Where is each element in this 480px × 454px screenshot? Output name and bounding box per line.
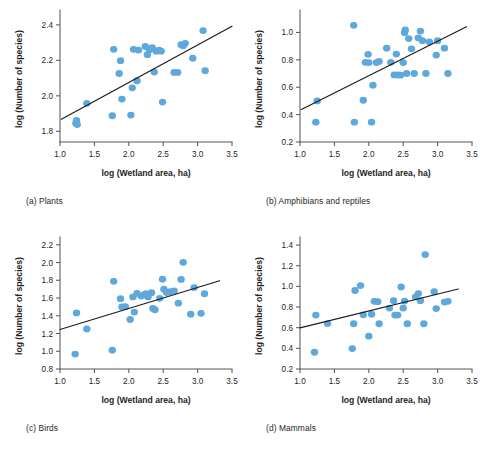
data-point [127,112,134,119]
data-point [109,112,116,119]
data-point [350,22,357,29]
data-point [383,45,390,52]
panel-b-plot: 0.20.40.60.81.01.01.52.02.53.03.5log (We… [240,0,480,195]
data-point [135,47,142,54]
data-point [405,35,412,42]
panel-d-plot: 0.20.40.60.81.01.21.41.01.52.02.53.03.5l… [240,227,480,422]
y-tick-label: 1.2 [42,330,54,339]
data-point [365,59,372,66]
panel-d-caption: (d) Mammals [266,423,316,433]
data-point [420,320,427,327]
data-point [422,251,429,258]
data-point [394,312,401,319]
data-point [360,97,367,104]
data-point [402,27,409,34]
x-tick-label: 1.5 [329,150,341,159]
data-point [177,276,184,283]
data-point [109,347,116,354]
y-tick-label: 1.0 [42,347,54,356]
data-point [441,45,448,52]
data-point [397,283,404,290]
panel-b-caption: (b) Amphibians and reptiles [266,196,370,206]
data-point [71,351,78,358]
y-tick-label: 0.4 [282,111,294,120]
data-point [351,119,358,126]
panel-a: 1.82.02.22.41.01.52.02.53.03.5log (Wetla… [0,0,240,227]
data-point [110,46,117,53]
data-point [174,69,181,76]
y-tick-label: 2.2 [42,241,54,250]
x-tick-label: 1.0 [294,377,306,386]
panel-b: 0.20.40.60.81.01.01.52.02.53.03.5log (We… [240,0,480,227]
y-axis-title: log (Number of species) [14,30,24,128]
x-axis-title: log (Wetland area, ha) [101,395,190,405]
panel-a-plot: 1.82.02.22.41.01.52.02.53.03.5log (Wetla… [0,0,240,195]
data-point [349,345,356,352]
x-tick-label: 1.5 [89,377,101,386]
data-point [400,305,407,312]
data-point [148,289,155,296]
data-point [411,70,418,77]
regression-line [301,27,466,110]
data-point [182,40,189,47]
panel-d-svg: 0.20.40.60.81.01.21.41.01.52.02.53.03.5l… [240,227,480,422]
data-point [404,320,411,327]
y-tick-label: 1.8 [42,276,54,285]
data-point [350,320,357,327]
data-point [390,297,397,304]
data-point [419,37,426,44]
x-tick-label: 2.0 [123,377,135,386]
y-tick-label: 2.2 [42,56,54,65]
data-point [73,310,80,317]
data-point [375,320,382,327]
panel-c-caption: (c) Birds [26,423,58,433]
y-tick-label: 1.2 [282,262,294,271]
data-point [159,99,166,106]
data-point [187,311,194,318]
data-point [129,84,136,91]
panel-c-plot: 0.81.01.21.41.61.82.02.21.01.52.02.53.03… [0,227,240,422]
x-tick-label: 3.5 [226,150,238,159]
data-point [365,333,372,340]
species-area-figure: 1.82.02.22.41.01.52.02.53.03.5log (Wetla… [0,0,480,454]
y-tick-label: 1.0 [282,282,294,291]
x-tick-label: 2.0 [123,150,135,159]
data-point [151,306,158,313]
y-tick-label: 1.0 [282,28,294,37]
data-point [126,316,133,323]
x-tick-label: 3.5 [466,377,478,386]
data-point [444,70,451,77]
y-tick-label: 1.8 [42,127,54,136]
y-tick-label: 0.8 [282,56,294,65]
data-point [444,298,451,305]
data-point [312,119,319,126]
x-tick-label: 3.5 [466,150,478,159]
y-tick-label: 2.0 [42,259,54,268]
y-axis-title: log (Number of species) [14,257,24,355]
x-tick-label: 3.0 [192,377,204,386]
x-tick-label: 2.0 [363,377,375,386]
x-tick-label: 1.0 [54,150,66,159]
data-point [117,295,124,302]
data-point [403,70,410,77]
data-point [368,119,375,126]
data-point [375,58,382,65]
data-point [189,55,196,62]
panel-d: 0.20.40.60.81.01.21.41.01.52.02.53.03.5l… [240,227,480,454]
data-point [83,325,90,332]
x-tick-label: 1.0 [54,377,66,386]
data-point [351,287,358,294]
data-point [131,309,138,316]
data-point [357,282,364,289]
data-point [157,48,164,55]
data-point [179,259,186,266]
x-tick-label: 2.5 [398,377,410,386]
data-point [393,51,400,58]
y-tick-label: 0.8 [282,303,294,312]
data-point [312,312,319,319]
y-tick-label: 0.2 [282,138,294,147]
data-point [197,310,204,317]
y-tick-label: 2.4 [42,21,54,30]
x-tick-label: 3.0 [432,150,444,159]
data-point [159,276,166,283]
